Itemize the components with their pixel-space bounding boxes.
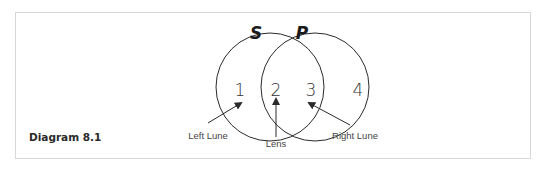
label-left-lune: Left Lune <box>188 130 228 141</box>
region-4: 4 <box>353 80 364 100</box>
diagram-caption: Diagram 8.1 <box>29 131 101 143</box>
set-label-s: S <box>250 23 262 43</box>
arrow-right-lune <box>309 103 350 125</box>
label-right-lune: Right Lune <box>332 130 378 141</box>
venn-diagram: S P 1 2 3 4 Left Lune Lens Right Lune <box>0 0 550 170</box>
set-label-p: P <box>296 23 309 43</box>
arrow-left-lune <box>208 103 241 123</box>
label-lens: Lens <box>266 138 287 149</box>
region-1: 1 <box>235 80 246 100</box>
region-2: 2 <box>271 80 282 100</box>
region-3: 3 <box>306 80 317 100</box>
